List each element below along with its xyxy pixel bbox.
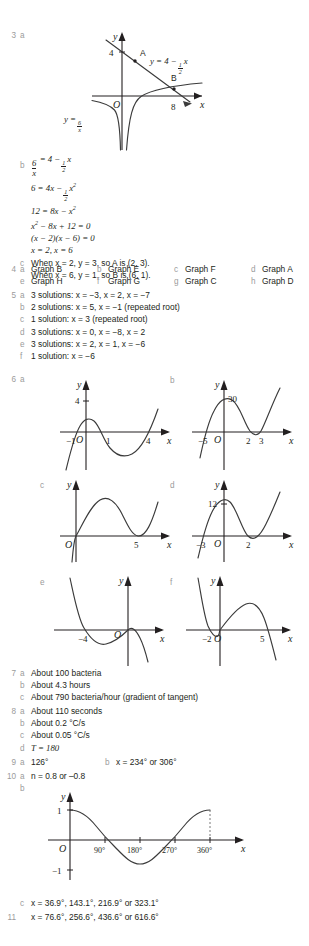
part-label-4d: d — [247, 264, 262, 275]
part-label-5f: f — [16, 351, 31, 362]
x-label-1: 5 — [134, 540, 139, 550]
answer-5c: 1 solution: x = 3 (repeated root) — [31, 314, 309, 325]
x-label-2: 1 — [106, 436, 111, 446]
work-text-6: x = 2, x = 6 — [31, 245, 309, 256]
part-label-6c: c — [40, 481, 44, 490]
origin-label: O — [76, 434, 83, 445]
y-intercept-label: 12 — [208, 499, 217, 509]
cubic-curve — [72, 498, 158, 562]
y-intercept-label: 4 — [109, 48, 114, 58]
graph-6e: y x O −4 — [52, 574, 172, 672]
question-9-row: 9 a 126° b x = 234° or 306° — [0, 757, 309, 768]
origin-label: O — [214, 538, 221, 549]
x-label-1: −2 — [202, 634, 212, 644]
part-label-4a: a — [16, 264, 31, 275]
y-axis-label: y — [210, 575, 216, 586]
answer-9a: 126° — [31, 757, 101, 768]
question-number-9: 9 — [0, 757, 16, 768]
x-label-1: −3 — [196, 540, 206, 550]
cubic-curve — [70, 578, 148, 662]
y-label-1: 1 — [57, 806, 62, 816]
part-label-6a: a — [16, 374, 31, 385]
question-9-block: 9 a 126° b x = 234° or 306° — [0, 757, 309, 768]
question-5-row-f: f 1 solution: x = −6 — [0, 351, 309, 362]
part-label-9a: a — [16, 757, 31, 768]
part-label-6f: f — [170, 578, 172, 587]
question-8-block: 8 a About 110 seconds b About 0.2 °C/s c… — [0, 706, 309, 754]
part-label-5a: a — [16, 290, 31, 301]
answer-4f: Graph G — [108, 276, 170, 287]
y-axis-arrow — [217, 576, 224, 586]
part-label-10c: c — [16, 898, 31, 909]
x-label-90: 90° — [94, 846, 105, 855]
question-8-row-b: b About 0.2 °C/s — [0, 718, 309, 729]
work-text-1: 6x = 4 −12x — [31, 154, 309, 178]
answer-4c: Graph F — [185, 264, 247, 275]
work-line-5: (x − 2)(x − 6) = 0 — [0, 233, 309, 244]
question-10-row-c: c x = 36.9°, 143.1°, 216.9° or 323.1° — [0, 898, 309, 909]
x-label-1: −5 — [198, 436, 208, 446]
x-label-1: −1 — [66, 436, 76, 446]
y-axis-label: y — [118, 575, 124, 586]
part-label-4b: b — [93, 264, 108, 275]
part-label-4f: f — [93, 276, 108, 287]
part-label-5c: c — [16, 314, 31, 325]
question-number-7: 7 — [0, 668, 16, 679]
answers-page: 3 a y x O 4 8 A B — [0, 0, 309, 946]
answer-11: x = 76.6°, 256.6°, 436.6° or 616.6° — [31, 912, 309, 923]
line-arrow — [183, 101, 192, 107]
answer-5b: 2 solutions: x = 5, x = −1 (repeated roo… — [31, 302, 309, 313]
x-label-3: 3 — [259, 436, 264, 446]
question-5-row-e: e 3 solutions: x = 2, x = 1, x = −6 — [0, 339, 309, 350]
answer-5d: 3 solutions: x = 0, x = −8, x = 2 — [31, 327, 309, 338]
answer-10a: n = 0.8 or –0.8 — [31, 771, 309, 782]
y-label-2: −1 — [52, 866, 62, 876]
work-text-3: 12 = 8x − x2 — [31, 203, 309, 217]
y-intercept-label: 30 — [228, 394, 238, 404]
y-axis-arrow — [73, 480, 80, 490]
part-label-5e: e — [16, 339, 31, 350]
graph-10b: y x O 1 −1 90° 180° 270° 360° — [44, 788, 274, 884]
part-label-6b: b — [170, 376, 175, 385]
y-axis-arrow — [221, 480, 228, 490]
question-number-11: 11 — [0, 912, 16, 923]
question-number-3: 3 — [0, 30, 16, 41]
x-label-2: 2 — [246, 436, 251, 446]
answer-7a: About 100 bacteria — [31, 668, 309, 679]
question-7-block: 7 a About 100 bacteria b About 4.3 hours… — [0, 668, 309, 704]
part-label-7c: c — [16, 692, 31, 703]
origin-label: O — [214, 434, 221, 445]
origin-label: O — [59, 843, 66, 854]
question-11-row: 11 x = 76.6°, 256.6°, 436.6° or 616.6° — [0, 912, 309, 923]
work-text-2: 6 = 4x −12x2 — [31, 180, 309, 202]
x-label-3: 4 — [146, 436, 151, 446]
cubic-curve — [198, 578, 276, 660]
y-axis-arrow — [221, 380, 228, 390]
part-label-4e: e — [16, 276, 31, 287]
work-line-2: 6 = 4x −12x2 — [0, 180, 309, 202]
x-label-360: 360° — [197, 846, 212, 855]
origin-label: O — [214, 633, 221, 644]
part-label-7a: a — [16, 668, 31, 679]
y-axis-label: y — [66, 479, 72, 490]
cubic-curve — [200, 388, 280, 458]
origin-label: O — [65, 539, 72, 550]
question-10-row-a: 10 a n = 0.8 or –0.8 — [0, 771, 309, 782]
question-number-8: 8 — [0, 706, 16, 717]
answer-8b: About 0.2 °C/s — [31, 718, 309, 729]
graph-6c: y x O 5 — [58, 478, 178, 576]
graph-6d: y x O 12 −3 2 — [190, 478, 305, 576]
graph-6b: y x O 30 −5 2 3 — [190, 374, 305, 474]
y-intercept-label: 4 — [75, 396, 80, 406]
point-a-marker — [133, 59, 136, 62]
x-label-2: 5 — [260, 634, 265, 644]
question-number-6: 6 — [0, 374, 16, 385]
answer-8c: About 0.05 °C/s — [31, 730, 309, 741]
y-axis-label: y — [60, 791, 66, 802]
answer-4b: Graph E — [108, 264, 170, 275]
question-4-block: 4 a Graph B b Graph E c Graph F d Graph … — [0, 264, 309, 287]
y-axis-label: y — [76, 379, 82, 390]
graph-6f: y x O −2 5 — [184, 574, 304, 672]
part-label-6e: e — [40, 578, 45, 587]
question-5-block: 5 a 3 solutions: x = −3, x = 2, x = −7 b… — [0, 290, 309, 362]
